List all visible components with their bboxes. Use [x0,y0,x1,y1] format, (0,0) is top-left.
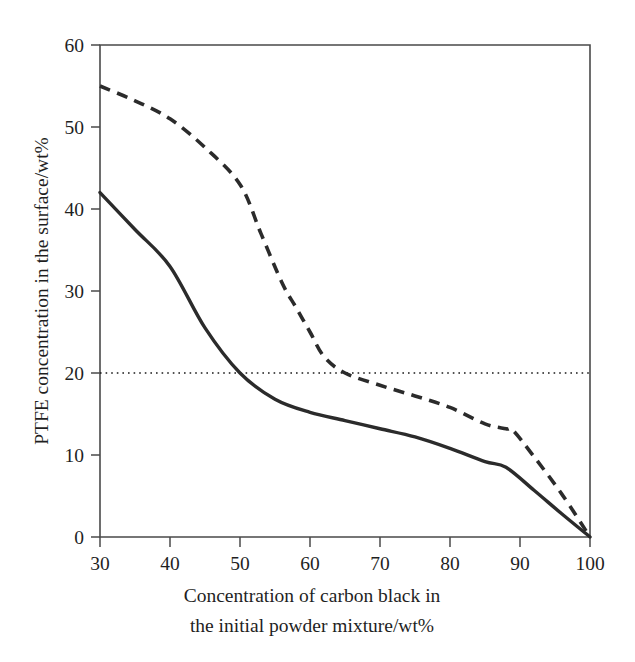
y-axis-title: PTFE concentration in the surface/wt% [31,137,52,445]
chart-figure: 60 50 40 30 20 10 0 30 40 50 60 70 80 90… [0,0,635,662]
y-tick-label-40: 40 [65,199,85,220]
y-tick-label-30: 30 [65,281,85,302]
x-tick-label-40: 40 [160,553,180,574]
x-tick-label-30: 30 [90,553,110,574]
y-tick-label-50: 50 [65,117,85,138]
y-tick-label-0: 0 [74,527,84,548]
x-tick-label-90: 90 [510,553,530,574]
x-axis-title-line2: the initial powder mixture/wt% [190,615,434,636]
x-tick-label-80: 80 [440,553,460,574]
y-tick-label-60: 60 [65,35,85,56]
x-axis-title-line1: Concentration of carbon black in [184,585,441,606]
y-tick-label-20: 20 [65,363,85,384]
x-tick-label-50: 50 [230,553,250,574]
x-tick-label-100: 100 [575,553,604,574]
x-tick-label-60: 60 [300,553,320,574]
x-tick-label-70: 70 [370,553,390,574]
y-tick-label-10: 10 [65,445,85,466]
